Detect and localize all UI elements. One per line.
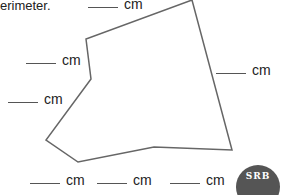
label-upper-left-edge: cm xyxy=(26,52,81,68)
unit-text: cm xyxy=(62,52,81,68)
answer-blank[interactable] xyxy=(26,63,56,64)
unit-text: cm xyxy=(124,0,143,12)
logo-text: SRB xyxy=(236,171,280,181)
label-top-edge: cm xyxy=(88,0,143,12)
label-bottom-2: cm xyxy=(97,172,152,188)
unit-text: cm xyxy=(252,62,271,78)
answer-blank[interactable] xyxy=(216,73,246,74)
answer-blank[interactable] xyxy=(8,102,38,103)
label-bottom-3: cm xyxy=(170,172,225,188)
label-lower-left-edge: cm xyxy=(8,91,63,107)
label-right-edge: cm xyxy=(216,62,271,78)
answer-blank[interactable] xyxy=(170,183,200,184)
answer-blank[interactable] xyxy=(30,183,60,184)
unit-text: cm xyxy=(66,172,85,188)
unit-text: cm xyxy=(133,172,152,188)
answer-blank[interactable] xyxy=(88,7,118,8)
unit-text: cm xyxy=(44,91,63,107)
answer-blank[interactable] xyxy=(97,183,127,184)
label-bottom-1: cm xyxy=(30,172,85,188)
unit-text: cm xyxy=(206,172,225,188)
